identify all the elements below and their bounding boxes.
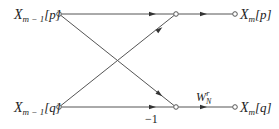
label-twiddle-factor: WNr <box>196 89 212 106</box>
label-output-bottom: Xm[q] <box>239 100 272 117</box>
label-output-top: Xm[p] <box>239 7 272 24</box>
label-negation: −1 <box>145 112 158 126</box>
node-output-top <box>233 12 238 17</box>
node-mid-top <box>174 12 179 17</box>
arrow-icon <box>149 12 156 16</box>
butterfly-diagram: Xm − 1[p] Xm − 1[q] Xm[p] Xm[q] WNr −1 <box>0 0 279 129</box>
arrow-icon <box>200 12 207 16</box>
node-output-bottom <box>233 105 238 110</box>
label-input-bottom: Xm − 1[q] <box>13 100 61 117</box>
arrow-icon <box>149 105 156 109</box>
node-mid-bottom <box>174 105 179 110</box>
label-input-top: Xm − 1[p] <box>13 7 61 24</box>
